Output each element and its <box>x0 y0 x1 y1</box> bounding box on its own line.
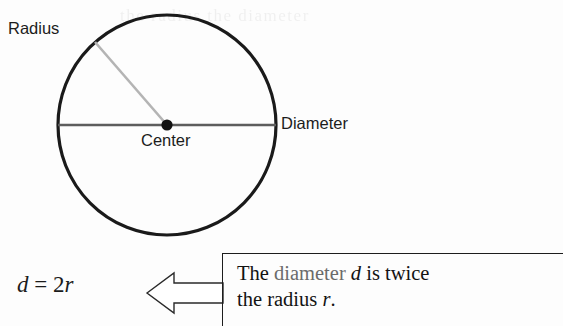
center-dot <box>161 119 172 130</box>
arrow-svg <box>144 268 226 318</box>
center-label: Center <box>141 131 191 150</box>
callout-line-1: The diameter d is twice <box>237 262 429 284</box>
callout-highlight-diameter: diameter <box>274 262 346 284</box>
radius-label: Radius <box>8 19 59 38</box>
callout-text: The diameter d is twice the radius r. <box>237 260 557 312</box>
callout-line1-prefix: The <box>237 262 274 284</box>
callout-line2-prefix: the radius <box>237 288 322 310</box>
formula-rhs-variable: r <box>64 272 73 297</box>
left-arrow-shape <box>147 273 223 313</box>
circle-diagram: Radius Diameter Center <box>0 0 400 245</box>
formula-lhs-variable: d <box>17 272 29 297</box>
radius-line <box>95 42 167 125</box>
callout-line1-suffix: is twice <box>361 262 429 284</box>
callout-line2-suffix: . <box>330 288 335 310</box>
figure-canvas: the radius the diameter Radius Diameter … <box>0 0 563 326</box>
callout-line1-variable: d <box>351 262 361 284</box>
formula-coefficient: 2 <box>53 272 65 297</box>
formula-operator: = <box>34 272 47 297</box>
callout-pointer-arrow <box>144 268 226 318</box>
diameter-label: Diameter <box>281 114 348 133</box>
callout-line-2: the radius r. <box>237 288 336 310</box>
callout-box: The diameter d is twice the radius r. <box>222 253 563 326</box>
formula-d-equals-2r: d = 2r <box>17 272 73 298</box>
